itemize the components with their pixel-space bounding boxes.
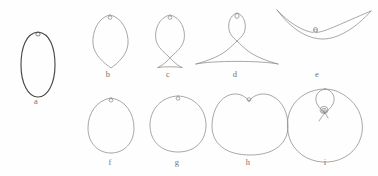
panel-d-node-loop bbox=[235, 14, 239, 19]
panel-label-g: g bbox=[167, 157, 187, 167]
panel-label-d: d bbox=[225, 69, 245, 79]
panel-g-node-loop bbox=[176, 97, 180, 100]
panel-d-shape bbox=[196, 13, 278, 64]
panel-b-shape bbox=[93, 15, 128, 68]
figure-drawing bbox=[0, 0, 378, 176]
panel-i-outline bbox=[287, 89, 362, 162]
panel-e-shape bbox=[277, 10, 371, 39]
panel-label-i: i bbox=[315, 157, 335, 167]
panel-f-outline bbox=[88, 98, 134, 153]
panel-h-outline bbox=[212, 94, 288, 155]
panel-a-node-loop bbox=[36, 32, 40, 36]
panel-a-shape bbox=[21, 32, 55, 97]
panel-f-node-loop bbox=[109, 99, 113, 102]
panel-g-outline bbox=[150, 96, 206, 152]
panel-i-shape bbox=[287, 89, 362, 162]
panel-label-c: c bbox=[158, 69, 178, 79]
panel-c-shape bbox=[156, 15, 185, 68]
panel-i-inner-loop bbox=[316, 89, 334, 121]
panel-c-node-loop bbox=[168, 16, 172, 19]
panel-h-shape bbox=[212, 94, 288, 155]
panel-label-a: a bbox=[26, 96, 46, 106]
panel-d-outline bbox=[196, 13, 278, 64]
panel-label-h: h bbox=[238, 157, 258, 167]
panel-label-f: f bbox=[100, 157, 120, 167]
panel-e-node-inner bbox=[314, 29, 316, 32]
panel-f-shape bbox=[88, 98, 134, 153]
panel-g-shape bbox=[150, 96, 206, 152]
panel-e-outline bbox=[277, 10, 371, 39]
panel-label-b: b bbox=[98, 69, 118, 79]
panel-c-outline bbox=[156, 15, 185, 68]
panel-b-outline bbox=[93, 15, 128, 68]
panel-a-outline bbox=[21, 32, 55, 97]
panel-b-node-loop bbox=[108, 16, 112, 19]
figure-container: a b c d e f g h i bbox=[0, 0, 378, 176]
panel-label-e: e bbox=[307, 69, 327, 79]
